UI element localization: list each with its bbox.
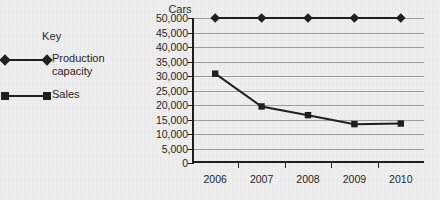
square-marker-icon [0,89,52,103]
diamond-marker-icon [303,13,313,23]
series-layer [192,18,424,164]
y-tick-label: 15,000 [156,114,188,126]
x-tick-label: 2009 [343,173,366,185]
legend-title: Key [0,30,150,42]
legend-item-production-capacity: Production capacity [0,52,150,78]
y-tick-label: 20,000 [156,99,188,111]
diamond-marker-icon [257,13,267,23]
square-marker-icon [305,112,311,118]
y-tick-label: 0 [182,157,188,169]
square-marker-icon [398,120,404,126]
diamond-marker-icon [396,13,406,23]
plot-area: 50,00045,00040,00035,00030,00025,00020,0… [192,18,424,163]
square-marker-icon [212,70,218,76]
square-marker-icon [351,121,357,127]
chart-figure: Key Production capacity Sales Cars 50,00… [0,0,440,200]
y-tick-label: 50,000 [156,12,188,24]
chart-area: Cars 50,00045,00040,00035,00030,00025,00… [150,0,440,200]
legend-item-sales: Sales [0,88,150,103]
y-tick-label: 5,000 [162,143,188,155]
y-tick-label: 45,000 [156,27,188,39]
x-tick-label: 2007 [250,173,273,185]
legend-item-label: Production capacity [52,52,136,78]
y-tick-label: 40,000 [156,41,188,53]
y-tick-label: 25,000 [156,85,188,97]
x-tick-label: 2010 [389,173,412,185]
square-marker-icon [258,103,264,109]
x-tick-label: 2006 [204,173,227,185]
x-tick-label: 2008 [296,173,319,185]
y-tick-label: 10,000 [156,128,188,140]
y-tick-label: 35,000 [156,56,188,68]
diamond-marker-icon [210,13,220,23]
y-tick-label: 30,000 [156,70,188,82]
chart-legend: Key Production capacity Sales [0,30,150,103]
diamond-marker-icon [350,13,360,23]
legend-item-label: Sales [52,88,80,101]
diamond-marker-icon [0,53,52,67]
